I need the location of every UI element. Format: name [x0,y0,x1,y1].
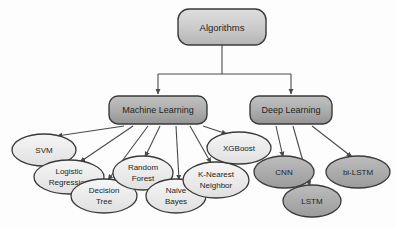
edge-dl-to-bi-lstm [312,126,352,157]
node-k-nearest-neighbor[interactable]: K-Nearest Neighbor [183,162,249,198]
random-forest-label-line2: Forest [132,174,155,183]
node-bi-lstm[interactable]: bi-LSTM [326,156,390,188]
machine-learning-label: Machine Learning [122,105,194,115]
k-nearest-neighbor-label-line2: Neighbor [200,181,233,190]
k-nearest-neighbor-label-line1: K-Nearest [198,170,235,179]
node-algorithms[interactable]: Algorithms [178,9,266,45]
naive-bayes-label-line1: Naive [166,186,187,195]
k-nearest-neighbor-shape [183,162,249,198]
edge-ml-to-svm [57,126,124,136]
lstm-label: LSTM [301,197,323,206]
node-lstm[interactable]: LSTM [283,185,341,217]
diagram-canvas: Algorithms Machine Learning Deep Learnin… [0,0,396,228]
node-deep-learning[interactable]: Deep Learning [250,96,332,124]
node-xgboost[interactable]: XGBoost [207,132,271,164]
node-cnn[interactable]: CNN [254,156,314,188]
nodes-layer: Algorithms Machine Learning Deep Learnin… [12,9,390,217]
decision-tree-label-line2: Tree [96,197,113,206]
random-forest-label-line1: Random [128,163,159,172]
bi-lstm-label: bi-LSTM [343,168,374,177]
cnn-label: CNN [275,168,293,177]
edge-ml-to-naive-bayes [176,126,179,180]
edge-dl-to-cnn [276,126,283,157]
deep-learning-label: Deep Learning [261,105,320,115]
algorithms-label: Algorithms [200,22,245,33]
edge-ml-to-xgboost [203,126,227,134]
decision-tree-label-line1: Decision [89,186,120,195]
node-machine-learning[interactable]: Machine Learning [109,96,207,124]
edge-ml-to-random-forest [145,126,160,157]
logistic-regression-label-line1: Logistic [55,167,82,176]
xgboost-label: XGBoost [223,144,256,153]
svm-label: SVM [35,146,53,155]
naive-bayes-label-line2: Bayes [165,197,187,206]
algorithms-tree-diagram: Algorithms Machine Learning Deep Learnin… [0,0,396,228]
